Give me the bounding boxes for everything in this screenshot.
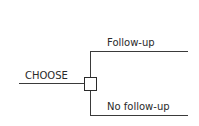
root-label: CHOOSE	[25, 71, 68, 81]
branch-label-follow-up: Follow-up	[107, 38, 155, 48]
branch-line-follow-up	[90, 51, 188, 52]
branch-label-no-follow-up: No follow-up	[107, 102, 170, 112]
branch-line-no-follow-up	[90, 115, 188, 116]
decision-node-square	[84, 77, 97, 91]
input-branch-line	[19, 83, 85, 84]
